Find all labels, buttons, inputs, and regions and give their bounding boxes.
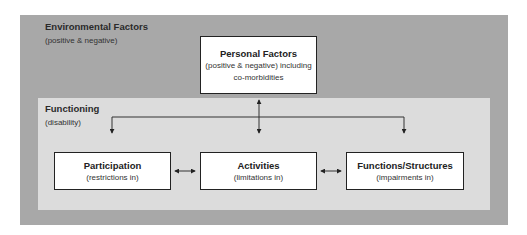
connector-arrows xyxy=(0,0,527,235)
distribution-line xyxy=(112,117,404,133)
